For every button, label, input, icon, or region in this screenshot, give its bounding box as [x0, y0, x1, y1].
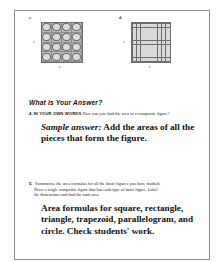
square-cell [141, 58, 145, 62]
figure-c-letter: c. [29, 15, 32, 20]
square-cell [149, 41, 153, 45]
circle-cell [42, 23, 52, 33]
square-cell [153, 53, 157, 57]
circle-cell [62, 23, 72, 33]
square-cell [149, 24, 153, 28]
square-cell [149, 49, 153, 53]
question-5-text-1: Summarize the area formulas for all the … [35, 181, 160, 186]
square-cell [133, 53, 137, 57]
square-cell [162, 36, 166, 40]
question-4-answer-prefix: Sample answer: [41, 122, 102, 132]
figures-row: c. s s [15, 11, 209, 97]
square-cell [166, 41, 170, 45]
circle-cell [52, 23, 62, 33]
figure-c-art [41, 22, 83, 63]
square-cell [158, 49, 162, 53]
square-cell [141, 28, 145, 32]
circle-cell [42, 43, 52, 53]
square-cell [133, 45, 137, 49]
square-cell [137, 49, 141, 53]
question-5-number: 5. [29, 181, 33, 186]
circle-cell [72, 33, 82, 43]
square-cell [137, 53, 141, 57]
square-cell [141, 41, 145, 45]
square-cell [166, 49, 170, 53]
square-cell [137, 58, 141, 62]
square-cell [153, 41, 157, 45]
square-cell [141, 53, 145, 57]
square-cell [158, 36, 162, 40]
circle-cell [62, 43, 72, 53]
square-cell [145, 53, 149, 57]
circle-cell [52, 52, 62, 62]
figure-c-bottom-label: s [59, 65, 60, 69]
square-cell [145, 24, 149, 28]
square-cell [141, 45, 145, 49]
square-cell [141, 36, 145, 40]
square-cell [133, 49, 137, 53]
circle-cell [72, 23, 82, 33]
square-cell [162, 28, 166, 32]
square-cell [145, 45, 149, 49]
square-cell [158, 41, 162, 45]
section-heading: What Is Your Answer? [29, 99, 102, 106]
square-cell [166, 53, 170, 57]
square-cell [137, 28, 141, 32]
square-cell [137, 41, 141, 45]
circle-cell [62, 52, 72, 62]
square-cell [145, 36, 149, 40]
circle-cell [42, 33, 52, 43]
square-cell [133, 36, 137, 40]
square-cell [162, 32, 166, 36]
square-cell [162, 45, 166, 49]
square-cell [162, 41, 166, 45]
square-cell [149, 32, 153, 36]
square-cell [158, 24, 162, 28]
square-cell [158, 58, 162, 62]
square-cell [149, 53, 153, 57]
circle-cell [42, 52, 52, 62]
square-cell [166, 28, 170, 32]
square-cell [141, 32, 145, 36]
worksheet-page: c. s s [14, 10, 210, 260]
square-cell [137, 36, 141, 40]
circle-cell [72, 43, 82, 53]
square-cell [153, 32, 157, 36]
square-cell [137, 45, 141, 49]
circles-grid [41, 22, 83, 63]
square-cell [162, 53, 166, 57]
question-5-answer: Area formulas for square, rectangle, tri… [41, 203, 209, 237]
square-cell [149, 36, 153, 40]
question-4-prompt: 4. IN YOUR OWN WORDS How can you find th… [29, 111, 205, 116]
square-cell [149, 28, 153, 32]
figure-d-left-label: s [123, 40, 124, 44]
square-cell [166, 24, 170, 28]
square-cell [145, 28, 149, 32]
square-cell [133, 24, 137, 28]
square-cell [133, 58, 137, 62]
square-cell [158, 45, 162, 49]
square-cell [153, 49, 157, 53]
square-cell [153, 58, 157, 62]
circle-cell [52, 43, 62, 53]
figure-d-letter: d. [119, 15, 122, 20]
square-cell [133, 28, 137, 32]
squares-grid [131, 22, 171, 63]
square-cell [162, 58, 166, 62]
figure-d-art [131, 22, 171, 63]
square-cell [158, 28, 162, 32]
square-cell [153, 28, 157, 32]
square-cell [149, 58, 153, 62]
square-cell [166, 36, 170, 40]
square-cell [133, 41, 137, 45]
square-cell [166, 45, 170, 49]
square-cell [158, 53, 162, 57]
question-4-number: 4. [29, 111, 33, 116]
square-cell [153, 24, 157, 28]
square-cell [153, 45, 157, 49]
square-cell [149, 45, 153, 49]
question-5-prompt: 5. Summarize the area formulas for all t… [29, 181, 207, 198]
square-cell [153, 36, 157, 40]
circle-cell [52, 33, 62, 43]
circle-cell [62, 33, 72, 43]
